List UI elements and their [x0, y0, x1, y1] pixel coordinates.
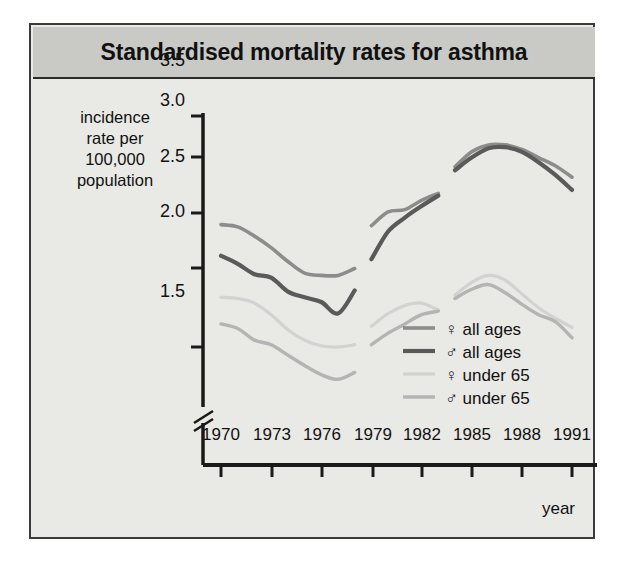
chart-figure: Standardised mortality rates for asthma …	[29, 23, 595, 539]
chart-plot	[31, 25, 597, 541]
axis-lines	[203, 113, 597, 465]
series-line-0	[371, 193, 438, 225]
series-line-3	[221, 324, 355, 379]
series-line-1	[221, 256, 355, 314]
series-line-2	[221, 297, 355, 347]
series-line-1	[371, 196, 438, 260]
series-line-3	[455, 285, 572, 338]
y-tick-marks	[191, 116, 203, 347]
legend-swatches	[403, 328, 435, 397]
series-paths	[221, 144, 572, 379]
